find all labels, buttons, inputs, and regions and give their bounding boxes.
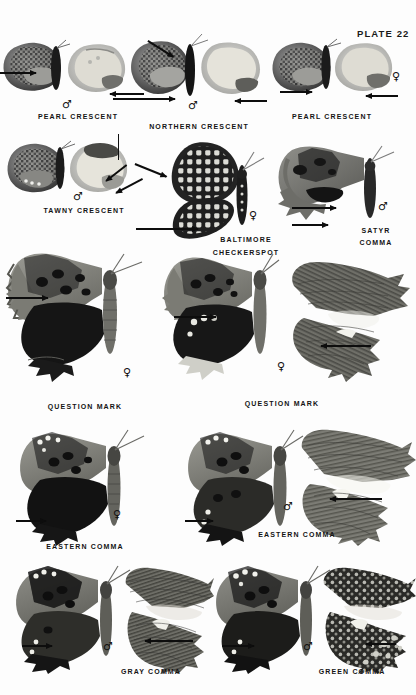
sex-symbol-female: ♀ — [113, 509, 121, 520]
caption-pearl-crescent: PEARL CRESCENT — [292, 113, 372, 120]
sex-symbol-male: ♂ — [103, 641, 113, 652]
specimen-question-mark-underside — [288, 256, 416, 386]
caption-tawny-crescent: TAWNY CRESCENT — [43, 207, 124, 214]
pointer-arrow — [22, 645, 52, 647]
caption-northern-crescent: NORTHERN CRESCENT — [149, 123, 249, 130]
sex-symbol-female: ♀ — [249, 210, 257, 221]
specimen-green-comma-male — [214, 564, 332, 674]
specimen-eastern-comma-underside — [298, 426, 416, 546]
caption-green-comma: GREEN COMMA — [319, 668, 386, 675]
caption-pearl-crescent: PEARL CRESCENT — [38, 113, 118, 120]
specimen-gray-comma-underside — [124, 564, 214, 674]
specimen-question-mark-female-right — [160, 248, 280, 388]
pointer-arrow — [330, 498, 382, 500]
pointer-arrow — [0, 72, 36, 74]
caption-satyr-comma-line2: COMMA — [360, 239, 393, 246]
plate-page: PLATE 22 ♂ ♂ ♀ ♂ ♀ ♂ ♀ ♀ ♀ ♂ ♂ ♂ PEARL C… — [0, 0, 416, 695]
specimen-baltimore-checkerspot-female — [168, 140, 278, 240]
pointer-arrow — [280, 91, 312, 93]
pointer-arrow — [110, 93, 144, 95]
pointer-arrow — [136, 228, 198, 230]
pointer-arrow — [16, 520, 46, 522]
pointer-leader — [118, 134, 119, 160]
pointer-arrow — [235, 100, 267, 102]
specimen-eastern-comma-female — [18, 428, 148, 546]
pointer-arrow — [185, 520, 213, 522]
pointer-arrow — [113, 98, 175, 100]
sex-symbol-male: ♂ — [283, 501, 293, 512]
plate-title: PLATE 22 — [357, 28, 409, 39]
sex-symbol-male: ♂ — [303, 641, 313, 652]
sex-symbol-female: ♀ — [123, 367, 131, 378]
caption-satyr-comma-line1: SATYR — [362, 227, 391, 234]
pointer-arrow — [6, 297, 48, 299]
sex-symbol-male: ♂ — [188, 100, 198, 111]
caption-baltimore-checkerspot-line2: CHECKERSPOT — [213, 249, 279, 256]
specimen-eastern-comma-male — [186, 428, 304, 546]
pointer-arrow — [222, 645, 254, 647]
pointer-arrow — [292, 207, 336, 209]
sex-symbol-male: ♂ — [73, 191, 83, 202]
pointer-arrow — [321, 345, 371, 347]
pointer-arrow — [366, 95, 398, 97]
pointer-arrow — [292, 224, 328, 226]
caption-eastern-comma: EASTERN COMMA — [258, 531, 336, 538]
pointer-arrow — [366, 643, 396, 645]
sex-symbol-male: ♂ — [378, 201, 388, 212]
pointer-arrow — [174, 316, 216, 318]
sex-symbol-male: ♂ — [62, 99, 72, 110]
caption-baltimore-checkerspot-line1: BALTIMORE — [220, 236, 271, 243]
specimen-green-comma-underside — [322, 564, 416, 674]
caption-question-mark: QUESTION MARK — [245, 400, 319, 407]
caption-eastern-comma: EASTERN COMMA — [46, 543, 124, 550]
sex-symbol-female: ♀ — [392, 71, 400, 82]
sex-symbol-female: ♀ — [277, 361, 285, 372]
caption-gray-comma: GRAY COMMA — [121, 668, 181, 675]
pointer-arrow — [145, 640, 193, 642]
caption-question-mark: QUESTION MARK — [48, 403, 122, 410]
specimen-gray-comma-male — [14, 564, 132, 674]
